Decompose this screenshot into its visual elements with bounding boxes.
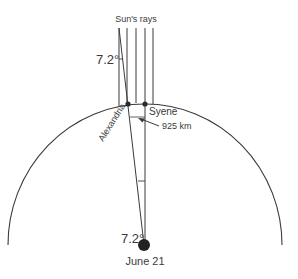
alexandria-point — [125, 101, 130, 106]
top-angle-label: 7.2° — [96, 52, 119, 67]
distance-label: 925 km — [162, 121, 192, 131]
diagram-canvas: Sun's rays 7.2° Syene 925 km Alexandria … — [0, 0, 298, 279]
eratosthenes-diagram: Sun's rays 7.2° Syene 925 km Alexandria … — [0, 0, 298, 279]
date-label: June 21 — [125, 255, 164, 267]
center-angle-label: 7.2° — [121, 231, 144, 246]
syene-label: Syene — [149, 106, 178, 117]
sun-rays — [119, 28, 153, 245]
sun-rays-label: Sun's rays — [115, 14, 157, 24]
syene-point — [142, 101, 147, 106]
alexandria-radius-line — [119, 28, 144, 245]
